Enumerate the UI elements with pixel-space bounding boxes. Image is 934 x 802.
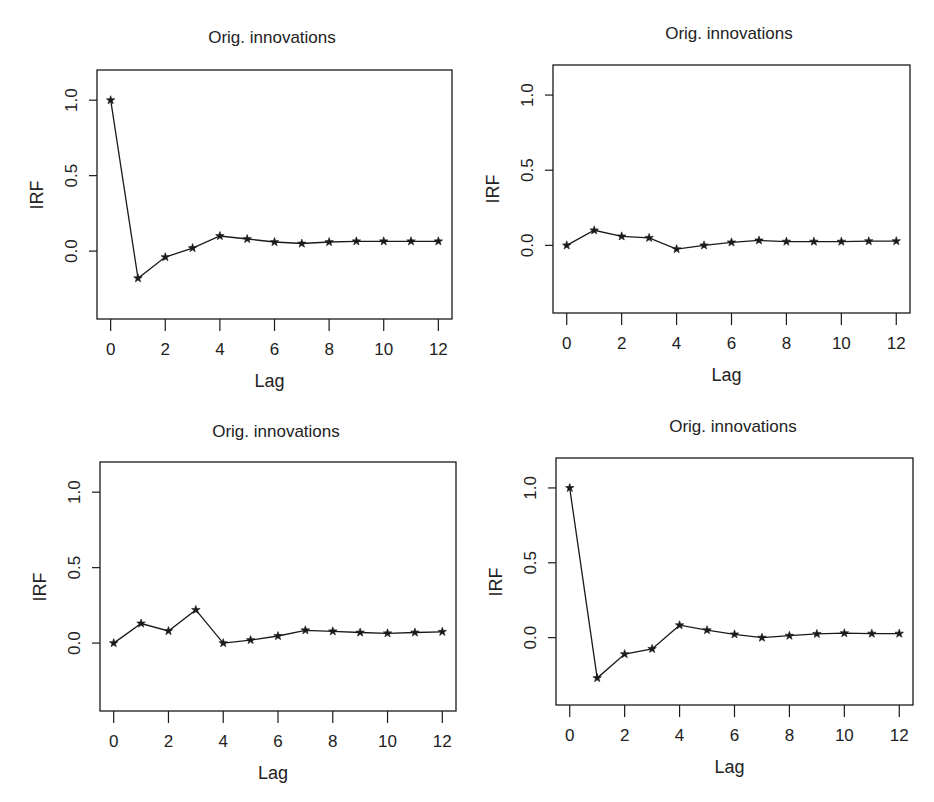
x-tick-label: 10	[835, 726, 854, 745]
y-tick-label: 0.0	[62, 239, 81, 263]
star-marker-icon	[243, 235, 252, 243]
x-axis-label: Lag	[714, 757, 744, 778]
star-marker-icon	[164, 627, 173, 635]
irf-panel-bottom-right: Orig. innovations 0.00.51.0024681012 IRF…	[467, 400, 934, 801]
star-marker-icon	[813, 629, 822, 637]
star-marker-icon	[407, 237, 416, 245]
x-tick-label: 6	[270, 340, 279, 359]
star-marker-icon	[645, 233, 654, 241]
star-marker-icon	[703, 626, 712, 634]
x-tick-label: 6	[273, 732, 282, 751]
x-tick-label: 8	[785, 726, 794, 745]
x-tick-label: 0	[109, 732, 118, 751]
star-marker-icon	[782, 237, 791, 245]
y-tick-label: 0.0	[65, 631, 84, 655]
star-marker-icon	[438, 627, 447, 635]
irf-panel-top-right: Orig. innovations 0.00.51.0024681012 IRF…	[467, 0, 934, 401]
x-tick-label: 8	[328, 732, 337, 751]
irf-markers	[106, 96, 442, 282]
x-tick-label: 2	[161, 340, 170, 359]
x-tick-label: 2	[620, 726, 629, 745]
x-tick-label: 2	[617, 334, 626, 353]
star-marker-icon	[865, 237, 874, 245]
x-axis-label: Lag	[711, 365, 741, 386]
y-tick-label: 1.0	[62, 88, 81, 112]
star-marker-icon	[617, 232, 626, 240]
star-marker-icon	[328, 627, 337, 635]
y-tick-label: 0.0	[518, 234, 537, 258]
y-tick-label: 1.0	[518, 83, 537, 107]
irf-markers	[109, 605, 446, 646]
x-tick-label: 4	[215, 340, 224, 359]
irf-line	[570, 488, 900, 678]
star-marker-icon	[730, 630, 739, 638]
irf-panel-bottom-left: Orig. innovations 0.00.51.0024681012 IRF…	[0, 400, 467, 801]
y-axis-label: IRF	[483, 175, 504, 204]
x-tick-label: 10	[832, 334, 851, 353]
x-tick-label: 10	[374, 340, 393, 359]
y-axis-label: IRF	[486, 567, 507, 596]
y-tick-label: 0.5	[65, 556, 84, 580]
star-marker-icon	[785, 631, 794, 639]
star-marker-icon	[134, 274, 143, 282]
star-marker-icon	[274, 632, 283, 640]
y-tick-label: 1.0	[521, 476, 540, 500]
x-tick-label: 8	[782, 334, 791, 353]
y-axis-label: IRF	[27, 180, 48, 209]
y-tick-label: 1.0	[65, 480, 84, 504]
star-marker-icon	[758, 633, 767, 641]
star-marker-icon	[411, 628, 420, 636]
star-marker-icon	[109, 639, 118, 647]
irf-plot: 0.00.51.0024681012	[0, 0, 467, 401]
star-marker-icon	[892, 237, 901, 245]
star-marker-icon	[325, 238, 334, 246]
star-marker-icon	[562, 241, 571, 249]
irf-plot: 0.00.51.0024681012	[467, 400, 934, 801]
x-tick-label: 12	[429, 340, 448, 359]
y-tick-label: 0.5	[62, 164, 81, 188]
irf-markers	[562, 226, 900, 253]
star-marker-icon	[868, 629, 877, 637]
star-marker-icon	[352, 237, 361, 245]
star-marker-icon	[837, 237, 846, 245]
star-marker-icon	[434, 237, 443, 245]
x-tick-label: 0	[562, 334, 571, 353]
irf-plot: 0.00.51.0024681012	[0, 400, 467, 801]
star-marker-icon	[810, 237, 819, 245]
star-marker-icon	[840, 629, 849, 637]
star-marker-icon	[895, 629, 904, 637]
star-marker-icon	[270, 238, 279, 246]
irf-markers	[565, 483, 903, 681]
x-tick-label: 4	[218, 732, 227, 751]
x-tick-label: 6	[727, 334, 736, 353]
star-marker-icon	[672, 245, 681, 253]
star-marker-icon	[216, 232, 225, 240]
star-marker-icon	[301, 626, 310, 634]
y-tick-label: 0.5	[521, 551, 540, 575]
star-marker-icon	[356, 628, 365, 636]
x-axis-label: Lag	[258, 763, 288, 784]
x-tick-label: 2	[164, 732, 173, 751]
y-tick-label: 0.5	[518, 158, 537, 182]
star-marker-icon	[755, 236, 764, 244]
irf-line	[111, 100, 439, 278]
irf-plot: 0.00.51.0024681012	[467, 0, 934, 401]
star-marker-icon	[246, 636, 255, 644]
x-tick-label: 12	[887, 334, 906, 353]
star-marker-icon	[590, 226, 599, 234]
star-marker-icon	[188, 244, 197, 252]
x-tick-label: 0	[106, 340, 115, 359]
x-tick-label: 6	[730, 726, 739, 745]
plot-frame	[100, 462, 456, 711]
irf-panel-top-left: Orig. innovations 0.00.51.0024681012 IRF…	[0, 0, 467, 401]
x-tick-label: 12	[433, 732, 452, 751]
star-marker-icon	[383, 629, 392, 637]
x-tick-label: 10	[378, 732, 397, 751]
y-tick-label: 0.0	[521, 626, 540, 650]
star-marker-icon	[298, 239, 307, 247]
x-tick-label: 8	[324, 340, 333, 359]
x-tick-label: 0	[565, 726, 574, 745]
y-axis-label: IRF	[30, 572, 51, 601]
plot-frame	[553, 65, 910, 313]
star-marker-icon	[379, 237, 388, 245]
